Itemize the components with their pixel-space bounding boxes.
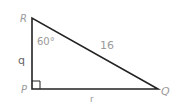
vertex-label-r: R <box>20 14 27 24</box>
triangle-rpq <box>32 18 158 89</box>
triangle-diagram: R P Q 60° 16 q r <box>0 0 175 111</box>
hypotenuse-label: 16 <box>100 40 114 51</box>
side-r-label: r <box>90 95 94 104</box>
vertex-label-q: Q <box>161 86 170 97</box>
right-angle-marker <box>32 81 40 89</box>
angle-r-label: 60° <box>37 37 55 47</box>
vertex-label-p: P <box>21 85 27 95</box>
side-q-label: q <box>18 55 25 66</box>
